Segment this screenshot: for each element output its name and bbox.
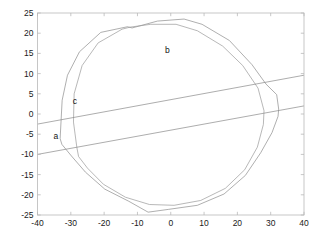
axis-tick-label-layer: -40-30-20-100102030402520151050-5-10-15-… [21,8,309,228]
annotation-label-a: a [53,131,58,141]
y-tick-label: 5 [29,89,34,99]
x-tick-label: -20 [98,218,111,228]
y-tick-label: 20 [24,28,34,38]
x-tick-label: 20 [233,218,243,228]
x-tick-label: 0 [168,218,173,228]
series-layer [38,19,305,212]
y-tick-label: 25 [24,8,34,18]
y-tick-label: -20 [21,190,34,200]
y-tick-label: -10 [21,149,34,159]
plot-canvas: -40-30-20-100102030402520151050-5-10-15-… [0,0,323,246]
annotation-label-c: c [73,96,78,106]
y-tick-label: -25 [21,210,34,220]
y-tick-label: -5 [26,129,34,139]
annotation-layer: abc [53,45,170,141]
y-tick-label: 0 [29,109,34,119]
y-tick-label: -15 [21,170,34,180]
y-tick-label: 15 [24,48,34,58]
x-tick-label: 40 [299,218,309,228]
chart-figure: -40-30-20-100102030402520151050-5-10-15-… [0,0,323,246]
x-tick-label: -10 [131,218,144,228]
x-tick-label: -30 [65,218,78,228]
y-tick-label: 10 [24,69,34,79]
annotation-label-b: b [165,45,170,55]
x-tick-label: 10 [199,218,209,228]
x-tick-label: 30 [266,218,276,228]
